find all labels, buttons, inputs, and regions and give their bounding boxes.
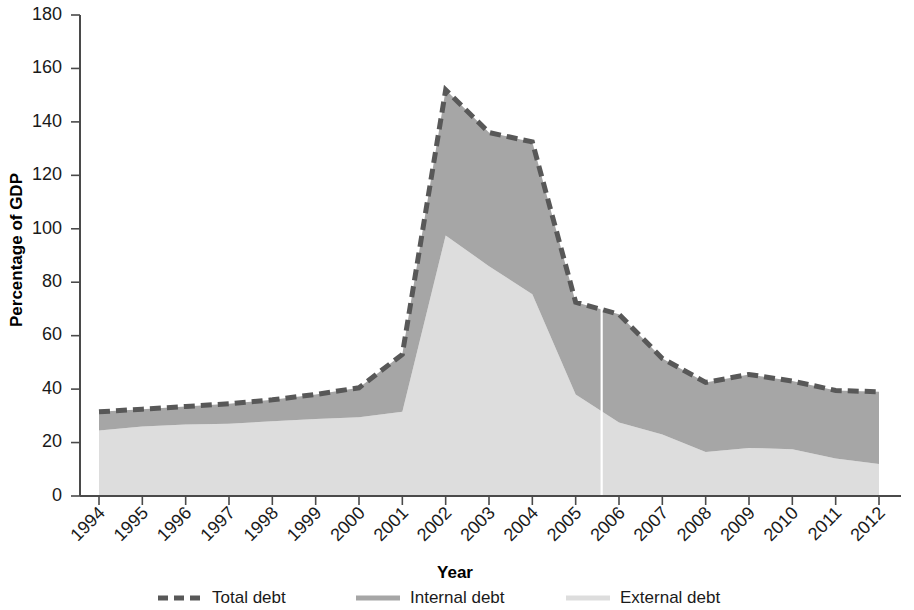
chart-figure: 020406080100120140160180 199419951996199… xyxy=(0,0,914,610)
x-tick-label: 2002 xyxy=(413,503,455,545)
area-external-debt xyxy=(99,235,879,496)
x-axis-title: Year xyxy=(437,563,473,582)
y-tick-label: 180 xyxy=(32,4,62,24)
legend-label: Total debt xyxy=(212,588,286,607)
x-axis-ticks: 1994199519961997199819992000200120022003… xyxy=(66,496,888,545)
y-tick-label: 40 xyxy=(42,378,62,398)
x-tick-label: 2009 xyxy=(716,503,758,545)
x-tick-label: 2000 xyxy=(326,503,368,545)
y-tick-label: 120 xyxy=(32,164,62,184)
x-tick-label: 2004 xyxy=(500,503,542,545)
x-tick-label: 1994 xyxy=(66,503,108,545)
x-tick-label: 2006 xyxy=(586,503,628,545)
x-tick-label: 1998 xyxy=(240,503,282,545)
legend-label: Internal debt xyxy=(410,588,505,607)
legend-label: External debt xyxy=(620,588,720,607)
y-axis-title: Percentage of GDP xyxy=(7,173,26,327)
x-tick-label: 1999 xyxy=(283,503,325,545)
x-tick-label: 2007 xyxy=(630,503,672,545)
y-tick-label: 80 xyxy=(42,271,62,291)
x-tick-label: 1995 xyxy=(110,503,152,545)
x-tick-label: 2005 xyxy=(543,503,585,545)
plot-areas xyxy=(99,90,879,496)
y-tick-label: 60 xyxy=(42,324,62,344)
y-tick-label: 100 xyxy=(32,218,62,238)
x-tick-label: 2008 xyxy=(673,503,715,545)
x-tick-label: 2012 xyxy=(846,503,888,545)
x-tick-label: 1996 xyxy=(153,503,195,545)
y-tick-label: 140 xyxy=(32,111,62,131)
y-tick-label: 160 xyxy=(32,57,62,77)
chart-legend: Total debtInternal debtExternal debt xyxy=(158,588,720,607)
y-axis-ticks: 020406080100120140160180 xyxy=(32,4,80,505)
x-tick-label: 2010 xyxy=(760,503,802,545)
x-tick-label: 1997 xyxy=(196,503,238,545)
debt-stacked-area-chart: 020406080100120140160180 199419951996199… xyxy=(0,0,914,610)
x-tick-label: 2001 xyxy=(370,503,412,545)
y-tick-label: 20 xyxy=(42,431,62,451)
y-tick-label: 0 xyxy=(52,485,62,505)
x-tick-label: 2003 xyxy=(456,503,498,545)
x-tick-label: 2011 xyxy=(804,503,846,545)
